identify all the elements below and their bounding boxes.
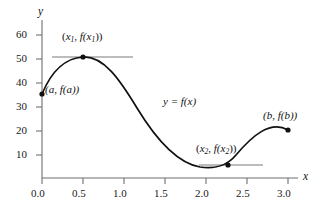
x-axis-label: x [303,171,308,183]
label-maximum-point: (x1, f(x1)) [62,31,103,42]
label-minimum-close: )) [229,142,236,154]
label-minimum-point: (x2, f(x2)) [196,143,237,154]
y-tick-label-40: 40 [16,77,27,88]
label-minimum-f-subscript: 2 [225,147,229,156]
label-function-curve: y = f(x) [163,96,196,107]
label-minimum-x-subscript: 2 [205,147,209,156]
y-tick-label-30: 30 [16,101,27,112]
label-maximum-x-subscript: 1 [71,35,75,44]
y-tick-label-60: 60 [16,29,27,40]
point-a-f-a [39,91,44,96]
label-maximum-close: )) [95,30,102,42]
y-axis-label: y [38,6,43,18]
label-maximum-f: f(x [80,30,92,42]
label-right-endpoint: (b, f(b)) [263,110,297,121]
label-maximum-f-subscript: 1 [91,35,95,44]
x-tick-label-0-5: 0.5 [72,188,86,199]
plot-canvas [0,0,318,211]
point-x1-f-x1 [80,54,85,59]
x-tick-label-1-0: 1.0 [113,188,127,199]
x-tick-label-0-0: 0.0 [31,188,45,199]
y-tick-label-20: 20 [16,125,27,136]
point-x2-f-x2 [225,162,230,167]
y-tick-label-50: 50 [16,53,27,64]
x-tick-label-1-5: 1.5 [154,188,168,199]
x-tick-label-3-0: 3.0 [277,188,291,199]
label-minimum-f: f(x [214,142,226,154]
point-b-f-b [285,127,290,132]
y-tick-label-10: 10 [16,149,27,160]
x-tick-label-2-5: 2.5 [236,188,250,199]
label-left-endpoint: (a, f(a)) [45,84,79,95]
label-maximum-x: x [66,30,71,42]
label-minimum-x: x [200,142,205,154]
function-curve [42,57,288,168]
x-tick-label-2-0: 2.0 [195,188,209,199]
figure-extrema-graph: y x 60 50 40 30 20 10 0.0 0.5 1.0 1.5 2.… [0,0,318,211]
x-axis-ticks [42,178,288,184]
